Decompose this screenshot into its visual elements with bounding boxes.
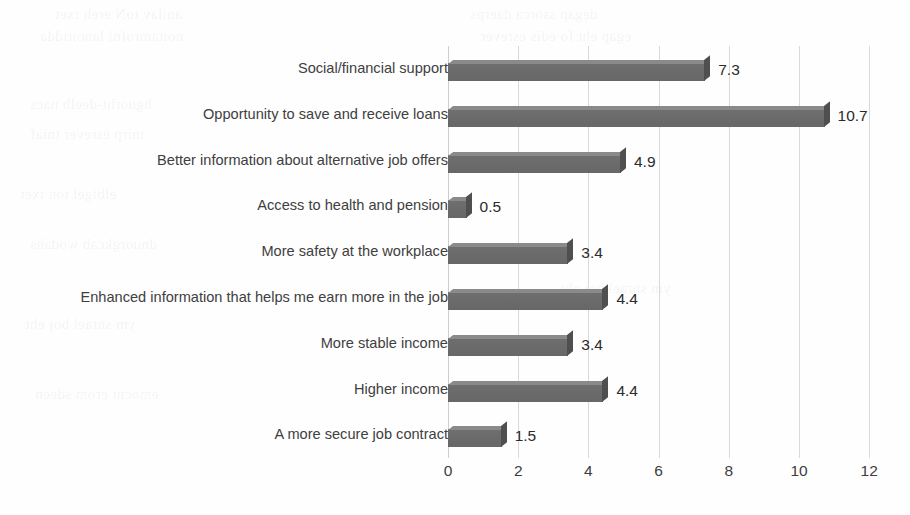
category-label: Higher income	[28, 380, 448, 399]
bar-value-label: 7.3	[718, 61, 740, 79]
bar-front-face	[448, 384, 603, 402]
bar-row: Access to health and pension0.5	[0, 187, 910, 233]
bar-side-face	[567, 238, 573, 264]
bar-value-label: 4.4	[616, 290, 638, 308]
bar-front-face	[448, 109, 825, 127]
bar-row: Better information about alternative job…	[0, 142, 910, 188]
bar-side-face	[824, 101, 830, 127]
bar-value-label: 3.4	[581, 336, 603, 354]
category-label: Opportunity to save and receive loans	[28, 105, 448, 124]
bar	[448, 381, 608, 402]
bar-front-face	[448, 155, 621, 173]
bar-front-face	[448, 200, 467, 218]
bar-value-label: 3.4	[581, 244, 603, 262]
x-tick-label: 12	[861, 462, 878, 480]
bar-top-face	[448, 243, 573, 247]
bar	[448, 335, 573, 356]
bar-side-face	[501, 422, 507, 448]
scan-artifact-text: egap eht fo edis esrever	[480, 28, 631, 45]
bar-front-face	[448, 292, 603, 310]
bar-top-face	[448, 335, 573, 339]
bar-top-face	[448, 381, 609, 385]
bar-side-face	[602, 376, 608, 402]
category-label: A more secure job contract	[28, 425, 448, 444]
bar-front-face	[448, 429, 502, 447]
bar-side-face	[466, 193, 472, 219]
x-tick-label: 10	[790, 462, 807, 480]
category-label: More stable income	[28, 334, 448, 353]
x-tick-label: 6	[654, 462, 663, 480]
x-tick-label: 2	[514, 462, 523, 480]
bar	[448, 60, 710, 81]
bar-top-face	[448, 289, 609, 293]
x-tick-label: 4	[584, 462, 593, 480]
bar-side-face	[704, 55, 710, 81]
category-label: Social/financial support	[28, 59, 448, 78]
bar-front-face	[448, 338, 568, 356]
bar-value-label: 4.4	[616, 382, 638, 400]
bar-value-label: 0.5	[480, 198, 502, 216]
bar	[448, 243, 573, 264]
bar-front-face	[448, 246, 568, 264]
bar-side-face	[602, 284, 608, 310]
bar-value-label: 4.9	[634, 153, 656, 171]
bar-row: More stable income3.4	[0, 325, 910, 371]
bar	[448, 289, 608, 310]
category-label: Better information about alternative job…	[28, 151, 448, 170]
bar-top-face	[448, 426, 507, 430]
bar	[448, 197, 472, 218]
scan-artifact-text: anilav toN ereh txet	[55, 6, 182, 23]
bar	[448, 426, 507, 447]
x-axis-tick-labels: 024681012	[0, 462, 910, 492]
bar	[448, 106, 830, 127]
category-label: More safety at the workplace	[28, 242, 448, 261]
x-tick-label: 0	[444, 462, 453, 480]
bar-value-label: 10.7	[838, 107, 868, 125]
scan-artifact-text: noitamrofni lanoitidda	[40, 28, 183, 45]
bar-top-face	[448, 60, 710, 64]
bar-top-face	[448, 152, 626, 156]
bar	[448, 152, 626, 173]
x-tick-label: 8	[724, 462, 733, 480]
bar-row: Higher income4.4	[0, 371, 910, 417]
bar-row: A more secure job contract1.5	[0, 416, 910, 462]
bar-top-face	[448, 106, 830, 110]
bar-row: More safety at the workplace3.4	[0, 233, 910, 279]
bar-side-face	[620, 147, 626, 173]
bar-row: Opportunity to save and receive loans10.…	[0, 96, 910, 142]
bar-row: Social/financial support7.3	[0, 50, 910, 96]
bar-row: Enhanced information that helps me earn …	[0, 279, 910, 325]
bar-value-label: 1.5	[515, 427, 537, 445]
scan-artifact-text: degap ssorca daerps	[470, 6, 598, 23]
category-label: Enhanced information that helps me earn …	[28, 288, 448, 307]
bar-front-face	[448, 63, 705, 81]
bar-chart-figure: anilav toN ereh txet degap ssorca daerps…	[0, 0, 910, 515]
category-label: Access to health and pension	[28, 196, 448, 215]
bar-side-face	[567, 330, 573, 356]
